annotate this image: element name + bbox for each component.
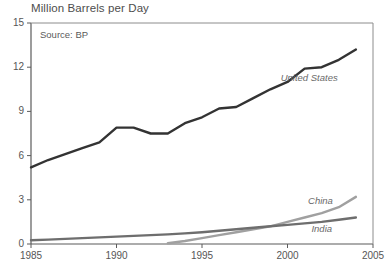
series-line-united-states [31, 50, 356, 168]
x-tick-marks [31, 244, 373, 248]
axis-frame [31, 23, 373, 244]
y-tick-label: 9 [2, 105, 24, 116]
x-tick-label: 1990 [95, 250, 139, 261]
y-tick-label: 12 [2, 61, 24, 72]
series-label-united-states: United States [281, 72, 338, 83]
chart-container: Million Barrels per Day Source: BP 03691… [0, 0, 388, 273]
y-tick-label: 6 [2, 150, 24, 161]
series-line-india [31, 217, 356, 240]
y-tick-label: 3 [2, 194, 24, 205]
series-label-china: China [308, 195, 333, 206]
x-tick-label: 1985 [9, 250, 53, 261]
series-label-india: India [311, 223, 332, 234]
x-tick-label: 2005 [351, 250, 388, 261]
y-tick-label: 0 [2, 238, 24, 249]
x-tick-label: 1995 [180, 250, 224, 261]
y-tick-label: 15 [2, 17, 24, 28]
x-tick-label: 2000 [266, 250, 310, 261]
